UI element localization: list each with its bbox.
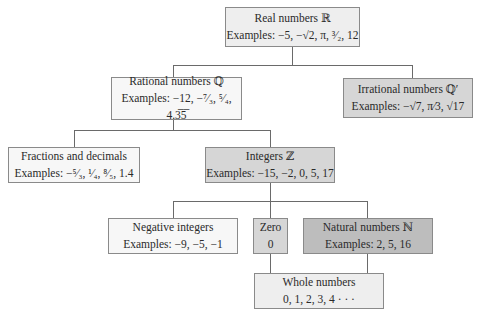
node-title: Negative integers	[109, 219, 237, 236]
connector-integers-branch	[173, 201, 368, 202]
node-examples: Examples: −9, −5, −1	[109, 236, 237, 253]
connector-to-integers	[270, 130, 271, 147]
connector-to-fractions	[74, 130, 75, 147]
node-title: Whole numbers	[255, 274, 383, 291]
node-rational-numbers: Rational numbers ℚ Examples: −12, −⁷⁄₃, …	[111, 77, 242, 120]
node-examples: Examples: −12, −⁷⁄₃, ⁵⁄₄, 4.3̅5̅	[112, 90, 241, 124]
node-integers: Integers ℤ Examples: −15, −2, 0, 5, 17	[205, 147, 335, 183]
node-examples: Examples: 2, 5, 16	[304, 236, 432, 253]
node-title: Rational numbers ℚ	[112, 73, 241, 90]
connector-to-natural	[367, 201, 368, 218]
node-title: Real numbers ℝ	[226, 10, 359, 27]
connector-natural-to-whole	[367, 254, 368, 273]
connector-to-irrational	[412, 65, 413, 78]
node-title: Natural numbers ℕ	[304, 219, 432, 236]
connector-to-negative	[173, 201, 174, 218]
node-title: Irrational numbers ℚ′	[344, 81, 472, 98]
node-whole-numbers: Whole numbers 0, 1, 2, 3, 4 · · ·	[254, 273, 384, 309]
node-examples: 0, 1, 2, 3, 4 · · ·	[255, 291, 383, 308]
connector-rational-branch	[74, 130, 271, 131]
node-title: Integers ℤ	[206, 148, 334, 165]
node-fractions-decimals: Fractions and decimals Examples: −⁵⁄₃, ¹…	[8, 147, 140, 183]
node-title: Fractions and decimals	[9, 148, 139, 165]
node-examples: Examples: −5, −√2, π, ³⁄₂, 12	[226, 27, 359, 44]
node-negative-integers: Negative integers Examples: −9, −5, −1	[108, 218, 238, 254]
node-natural-numbers: Natural numbers ℕ Examples: 2, 5, 16	[303, 218, 433, 254]
node-examples: 0	[254, 236, 287, 253]
node-irrational-numbers: Irrational numbers ℚ′ Examples: −√7, π⁄3…	[343, 78, 473, 118]
node-real-numbers: Real numbers ℝ Examples: −5, −√2, π, ³⁄₂…	[225, 7, 360, 47]
node-examples: Examples: −15, −2, 0, 5, 17	[206, 165, 334, 182]
node-title: Zero	[254, 219, 287, 236]
connector-zero-to-whole	[270, 254, 271, 273]
node-examples: Examples: −√7, π⁄3, √17	[344, 98, 472, 115]
node-examples: Examples: −⁵⁄₃, ¹⁄₄, ⁸⁄₅, 1.4	[9, 165, 139, 182]
node-zero: Zero 0	[253, 218, 288, 254]
connector-real-branch	[173, 65, 413, 66]
connector-real-down	[292, 46, 293, 65]
